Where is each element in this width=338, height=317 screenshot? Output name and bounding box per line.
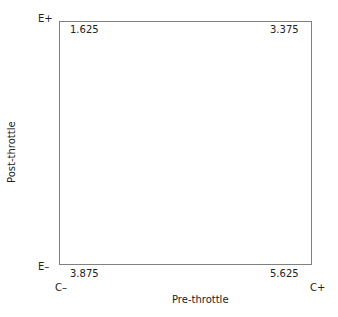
value-top-left: 1.625 [70, 24, 99, 36]
value-bottom-left: 3.875 [70, 268, 99, 280]
value-bottom-right: 5.625 [270, 268, 299, 280]
plot-frame [59, 21, 312, 265]
x-max-label: C+ [310, 282, 325, 294]
y-min-label: E– [38, 261, 49, 273]
y-axis-title: Post-throttle [6, 121, 17, 183]
x-axis-title: Pre-throttle [172, 294, 229, 306]
value-top-right: 3.375 [270, 24, 299, 36]
x-min-label: C– [55, 282, 67, 294]
y-max-label: E+ [38, 13, 53, 25]
